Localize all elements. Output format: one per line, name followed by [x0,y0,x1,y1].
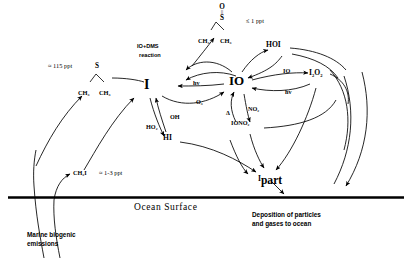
marine-emissions-line2: emissions [27,241,58,247]
arrow-i2o2-to-io-hv [252,84,310,91]
species-iodine-nitrate: IONO₂ [231,120,249,126]
line-dms-to-i [112,78,144,82]
arrow-iono2-to-ipart [250,134,264,168]
arrow-ch3i-to-i [84,98,134,170]
curve-iono2-right [264,100,336,128]
reactant-hv-io-to-i: hv [193,80,200,86]
reactant-thermal-decomposition: Δ [226,110,230,116]
dmso-left-methyl: CH₃ [198,30,210,46]
molecule-dmso: O || S [200,3,244,22]
arrow-iono2-to-io-delta [231,92,236,122]
reactant-hv-i2o2-to-io: hv [285,89,292,95]
reactant-hydroperoxy: HO₂ [146,124,157,130]
ocean-surface-label: Ocean Surface [134,203,197,213]
curve-hoi-right [290,48,346,70]
reactant-ozone: O₃ [196,99,203,105]
marine-emissions-line1: Marine biogenic [27,232,76,238]
arrow-io-to-i2o2 [252,73,308,80]
annotation-io-dms-reaction-line1: IO+DMS [137,44,159,50]
dms-concentration-label: ≈ 115 ppt [48,63,72,69]
curve-io-to-i-upper [186,62,232,72]
species-diiodine-dioxide: I₂O₂ [309,69,322,77]
dms-right-methyl: CH₃ [99,82,111,98]
bond-dms-left [90,74,96,82]
dmso-sulfur-label: S [200,14,244,22]
iodine-chemistry-diagram: O || S CH₃ CH₃ ≤ 1 ppt S CH₃ CH₃ ≈ 115 p… [0,0,412,263]
species-hypoiodous-acid: HOI [266,41,281,49]
species-hydrogen-iodide: HI [163,134,172,142]
deposition-line2: and gases to ocean [252,221,311,227]
arrow-io-to-hoi [242,50,268,72]
arrow-i2o2-to-ipart [276,88,316,170]
species-particulate-iodine: Ipart [258,168,282,186]
arrow-o3-i-to-io [162,92,224,103]
bond-dms-right [96,74,104,82]
curve-right-deposition-inner [334,76,351,184]
dmso-right-methyl: CH₃ [220,30,232,46]
reactant-hydroxyl: OH [170,114,180,120]
arrow-hi-to-ipart [180,142,256,172]
dms-sulfur-label: S [86,62,108,70]
annotation-io-dms-reaction-line2: reaction [139,53,161,59]
dmso-concentration-label: ≤ 1 ppt [246,18,264,24]
bond-dmso-left [211,22,216,30]
species-iodine-atom: I [144,78,149,92]
reactant-io-self: IO [283,68,290,74]
arrow-inner-to-ipart [230,140,248,174]
species-methyl-iodide: CH₃I [73,170,87,176]
arrow-ocean-to-dms [36,96,82,166]
methyl-iodide-concentration: ≈ 1-3 ppt [99,170,122,176]
dms-left-methyl: CH₃ [78,82,90,98]
deposition-line1: Deposition of particles [252,212,321,218]
arrow-hv-io-to-i [178,84,224,86]
curve-far-right-return [330,70,348,150]
arrow-hi-to-i-oh [156,98,166,132]
molecule-dms: S [86,62,108,70]
arrow-right-deposition-outer [346,72,367,186]
species-iodine-monoxide: IO [229,74,244,87]
ipart-subscript: part [261,174,282,186]
reactant-nitrogen-dioxide: NO₂ [248,106,259,112]
bond-dmso-right [216,22,224,30]
